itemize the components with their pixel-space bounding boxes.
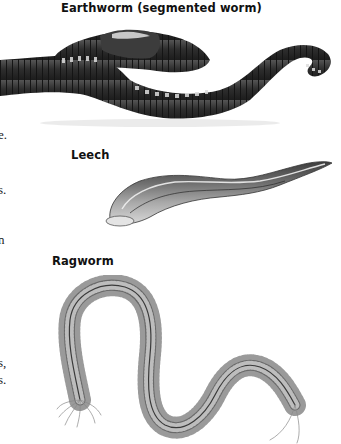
ragworm-caption: Ragworm bbox=[52, 254, 114, 268]
cropped-text-fragment: s. bbox=[0, 182, 6, 198]
ragworm-illustration bbox=[55, 275, 315, 444]
cropped-text-fragment: s, bbox=[0, 355, 6, 371]
earthworm-illustration bbox=[0, 20, 341, 130]
earthworm-caption: Earthworm (segmented worm) bbox=[61, 1, 262, 15]
cropped-text-fragment: n bbox=[0, 232, 5, 248]
leech-illustration bbox=[100, 155, 340, 235]
cropped-text-fragment: s. bbox=[0, 372, 6, 388]
